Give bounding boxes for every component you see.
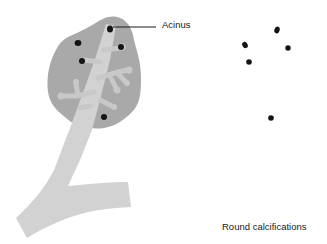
acinus-label: Acinus [162,19,191,30]
calcification-dot [285,45,290,50]
calcification-dot [246,59,252,65]
round-calcifications [241,26,291,121]
calcification-dot [79,58,85,64]
calcification-dot [75,40,82,46]
calcification-dot [268,115,274,121]
calcification-dot [118,44,124,50]
calcification-dot [101,114,107,120]
calcification-dot [107,25,113,32]
round-calcifications-label: Round calcifications [222,221,307,232]
calcification-dot [273,26,280,34]
calcification-dot [241,41,249,49]
breast-lobule-diagram [0,0,327,244]
